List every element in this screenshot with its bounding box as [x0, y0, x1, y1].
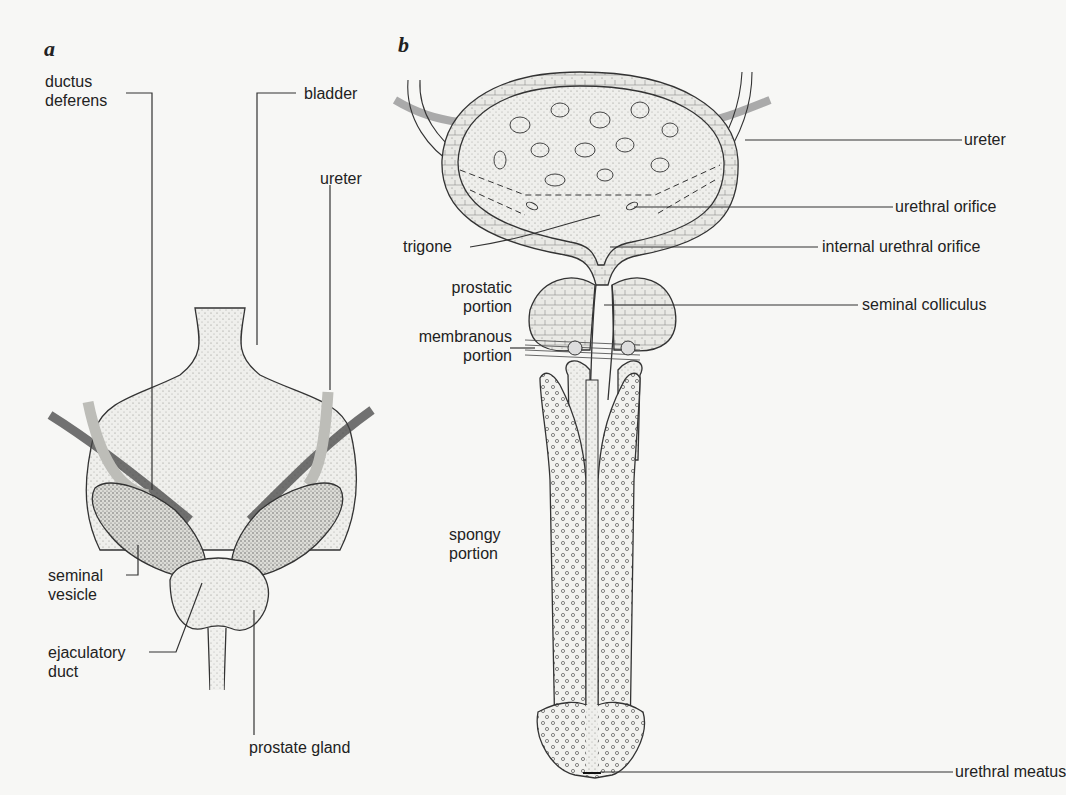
label-ureter-b: ureter: [964, 130, 1006, 149]
label-spongy-portion: spongy portion: [449, 525, 501, 563]
label-line: portion: [449, 544, 501, 563]
panel-b-drawing: [395, 72, 962, 778]
label-internal-urethral-orifice: internal urethral orifice: [822, 237, 980, 256]
label-line: duct: [48, 662, 125, 681]
label-line: seminal: [48, 566, 103, 585]
panel-letter-b: b: [398, 32, 409, 58]
panel-a-drawing: [50, 93, 372, 735]
label-line: ductus: [45, 72, 107, 91]
label-line: portion: [426, 297, 512, 316]
label-line: ejaculatory: [48, 643, 125, 662]
label-ductus-deferens: ductus deferens: [45, 72, 107, 110]
label-line: vesicle: [48, 585, 103, 604]
label-ejaculatory-duct: ejaculatory duct: [48, 643, 125, 681]
label-line: prostatic: [426, 278, 512, 297]
label-seminal-colliculus: seminal colliculus: [862, 295, 987, 314]
label-line: portion: [392, 346, 512, 365]
label-ureter-a: ureter: [320, 169, 362, 188]
label-trigone: trigone: [403, 237, 452, 256]
label-prostate-gland: prostate gland: [249, 738, 350, 757]
label-bladder: bladder: [304, 84, 357, 103]
panel-letter-a: a: [44, 36, 55, 62]
label-urethral-meatus: urethral meatus: [955, 762, 1066, 781]
label-urethral-orifice: urethral orifice: [895, 197, 996, 216]
prostate-b: [529, 278, 595, 351]
label-prostatic-portion: prostatic portion: [426, 278, 512, 316]
corpus-cavernosum-right: [598, 373, 640, 740]
label-line: spongy: [449, 525, 501, 544]
label-membranous-portion: membranous portion: [392, 327, 512, 365]
corpus-spongiosum: [586, 380, 598, 740]
label-seminal-vesicle: seminal vesicle: [48, 566, 103, 604]
label-line: deferens: [45, 91, 107, 110]
label-line: membranous: [392, 327, 512, 346]
